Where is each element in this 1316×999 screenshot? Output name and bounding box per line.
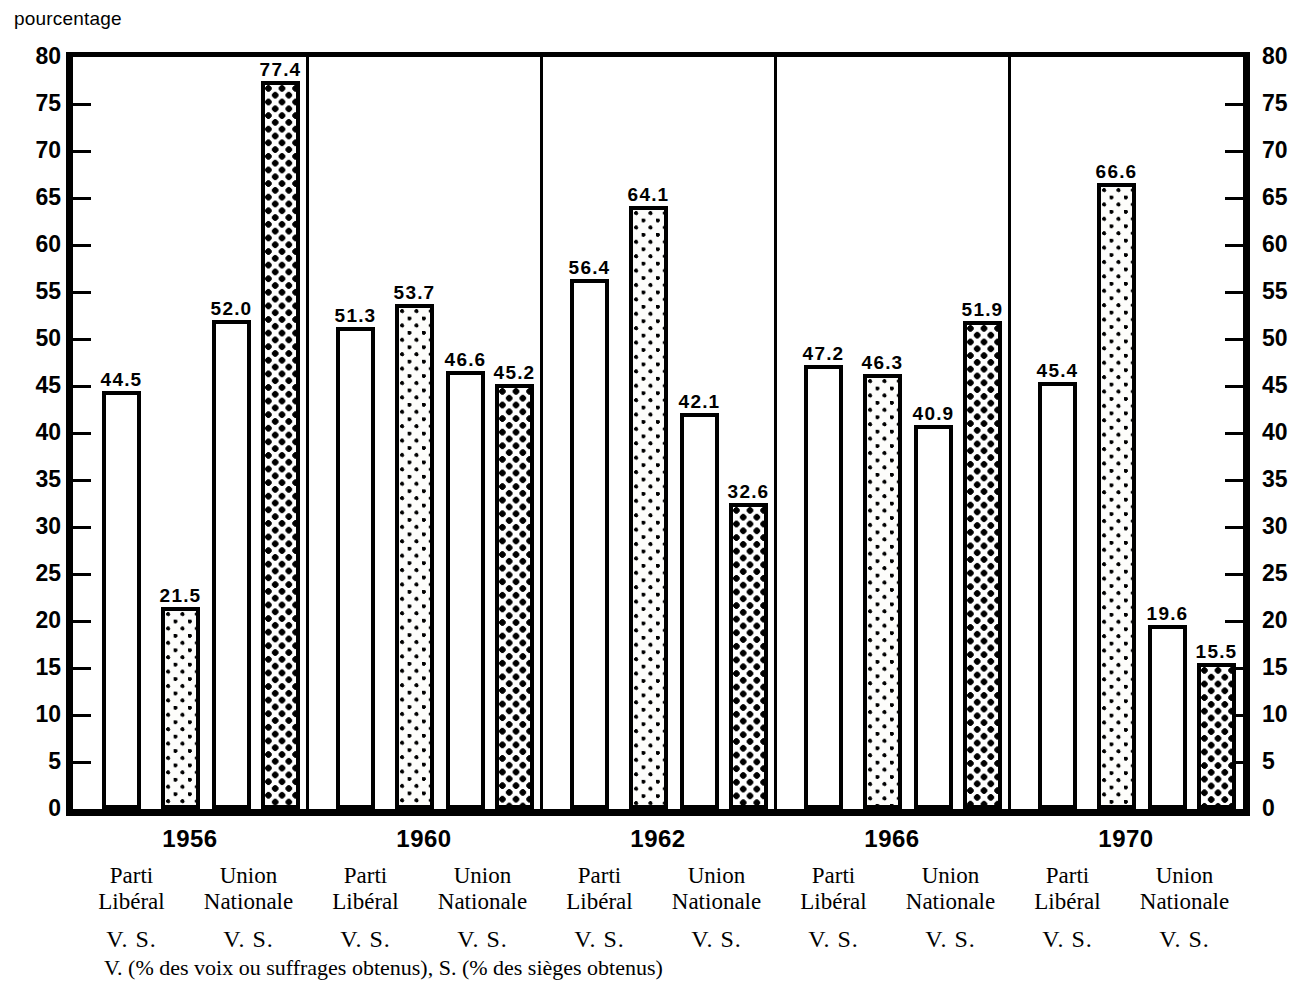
y-tick-right bbox=[1225, 385, 1243, 388]
y-tick-left bbox=[73, 714, 91, 717]
y-tick-right bbox=[1225, 338, 1243, 341]
bar-1962-3[interactable]: 42.1 bbox=[680, 413, 719, 809]
bar-1970-3[interactable]: 19.6 bbox=[1148, 625, 1187, 809]
bar-value-label: 47.2 bbox=[803, 343, 845, 365]
y-axis-title: pourcentage bbox=[14, 8, 122, 30]
bar-1956-3[interactable]: 52.0 bbox=[212, 320, 251, 809]
party-union-line1: Union bbox=[892, 863, 1009, 889]
y-tick-right bbox=[1225, 197, 1243, 200]
y-tick-left bbox=[73, 197, 91, 200]
bar-1966-1[interactable]: 47.2 bbox=[804, 365, 843, 809]
chart-plot-inner: 44.521.552.077.451.353.746.645.256.464.1… bbox=[73, 57, 1243, 809]
x-group-vs-row: V. S.V. S. bbox=[1009, 926, 1243, 953]
y-tick-left bbox=[73, 291, 91, 294]
bar-1966-3[interactable]: 40.9 bbox=[914, 425, 953, 809]
y-tick-left bbox=[73, 150, 91, 153]
bar-value-label: 44.5 bbox=[101, 369, 143, 391]
x-group-year-label: 1966 bbox=[775, 825, 1009, 853]
y-tick-label-right: 60 bbox=[1262, 233, 1316, 256]
y-tick-label-right: 0 bbox=[1262, 797, 1316, 820]
party-union-line2: Nationale bbox=[892, 889, 1009, 915]
y-tick-left bbox=[73, 620, 91, 623]
bar-value-label: 66.6 bbox=[1096, 161, 1138, 183]
bar-1962-4[interactable]: 32.6 bbox=[729, 503, 768, 809]
group-separator bbox=[306, 57, 309, 809]
y-tick-left bbox=[73, 385, 91, 388]
y-tick-label-left: 70 bbox=[1, 139, 61, 162]
party-union-label: UnionNationale bbox=[424, 863, 541, 915]
bar-value-label: 45.4 bbox=[1037, 360, 1079, 382]
party-liberal-label: PartiLibéral bbox=[73, 863, 190, 915]
x-group-1970: 1970PartiLibéralUnionNationaleV. S.V. S. bbox=[1009, 816, 1243, 953]
x-axis-group-labels: 1956PartiLibéralUnionNationaleV. S.V. S.… bbox=[66, 816, 1250, 966]
y-tick-label-left: 65 bbox=[1, 186, 61, 209]
y-tick-left bbox=[73, 667, 91, 670]
bar-value-label: 42.1 bbox=[679, 391, 721, 413]
bar-1970-4[interactable]: 15.5 bbox=[1197, 663, 1236, 809]
bar-1966-2[interactable]: 46.3 bbox=[863, 374, 902, 809]
vs-label-liberal: V. S. bbox=[1009, 926, 1126, 953]
x-group-vs-row: V. S.V. S. bbox=[775, 926, 1009, 953]
party-union-label: UnionNationale bbox=[1126, 863, 1243, 915]
y-tick-left bbox=[73, 244, 91, 247]
y-tick-label-left: 45 bbox=[1, 374, 61, 397]
bar-value-label: 53.7 bbox=[394, 282, 436, 304]
y-tick-label-right: 70 bbox=[1262, 139, 1316, 162]
y-tick-right bbox=[1225, 479, 1243, 482]
y-tick-label-right: 35 bbox=[1262, 468, 1316, 491]
x-group-party-row: PartiLibéralUnionNationale bbox=[307, 863, 541, 915]
party-liberal-label: PartiLibéral bbox=[1009, 863, 1126, 915]
bar-1956-2[interactable]: 21.5 bbox=[161, 607, 200, 809]
party-liberal-label: PartiLibéral bbox=[541, 863, 658, 915]
y-tick-label-left: 25 bbox=[1, 562, 61, 585]
bar-1956-4[interactable]: 77.4 bbox=[261, 81, 300, 809]
bar-1960-2[interactable]: 53.7 bbox=[395, 304, 434, 809]
party-liberal-label: PartiLibéral bbox=[775, 863, 892, 915]
y-tick-left bbox=[73, 479, 91, 482]
x-group-1962: 1962PartiLibéralUnionNationaleV. S.V. S. bbox=[541, 816, 775, 953]
y-tick-label-right: 30 bbox=[1262, 515, 1316, 538]
y-tick-label-left: 5 bbox=[1, 750, 61, 773]
y-tick-label-right: 50 bbox=[1262, 327, 1316, 350]
bar-1960-1[interactable]: 51.3 bbox=[336, 327, 375, 809]
y-tick-left bbox=[73, 103, 91, 106]
bar-1962-2[interactable]: 64.1 bbox=[629, 206, 668, 809]
party-liberal-line2: Libéral bbox=[1009, 889, 1126, 915]
bar-value-label: 51.9 bbox=[962, 299, 1004, 321]
party-union-line1: Union bbox=[1126, 863, 1243, 889]
party-union-line2: Nationale bbox=[1126, 889, 1243, 915]
bar-1960-3[interactable]: 46.6 bbox=[446, 371, 485, 809]
y-tick-label-left: 0 bbox=[1, 797, 61, 820]
y-tick-left bbox=[73, 573, 91, 576]
party-union-line1: Union bbox=[658, 863, 775, 889]
bar-value-label: 77.4 bbox=[260, 59, 302, 81]
bar-1970-2[interactable]: 66.6 bbox=[1097, 183, 1136, 809]
bar-value-label: 45.2 bbox=[494, 362, 536, 384]
y-tick-label-left: 75 bbox=[1, 92, 61, 115]
x-group-party-row: PartiLibéralUnionNationale bbox=[775, 863, 1009, 915]
y-tick-left bbox=[73, 338, 91, 341]
y-tick-label-left: 80 bbox=[1, 45, 61, 68]
y-tick-right bbox=[1225, 573, 1243, 576]
x-group-vs-row: V. S.V. S. bbox=[541, 926, 775, 953]
bar-1960-4[interactable]: 45.2 bbox=[495, 384, 534, 809]
y-tick-label-right: 45 bbox=[1262, 374, 1316, 397]
bar-value-label: 51.3 bbox=[335, 305, 377, 327]
chart-plot-area: 44.521.552.077.451.353.746.645.256.464.1… bbox=[66, 52, 1250, 816]
y-tick-label-right: 5 bbox=[1262, 750, 1316, 773]
y-tick-label-right: 20 bbox=[1262, 609, 1316, 632]
y-tick-label-right: 25 bbox=[1262, 562, 1316, 585]
party-union-line2: Nationale bbox=[190, 889, 307, 915]
bar-value-label: 64.1 bbox=[628, 184, 670, 206]
bar-1966-4[interactable]: 51.9 bbox=[963, 321, 1002, 809]
bar-1962-1[interactable]: 56.4 bbox=[570, 279, 609, 809]
vs-label-liberal: V. S. bbox=[541, 926, 658, 953]
bar-1956-1[interactable]: 44.5 bbox=[102, 391, 141, 809]
party-union-label: UnionNationale bbox=[658, 863, 775, 915]
y-tick-right bbox=[1225, 620, 1243, 623]
bar-1970-1[interactable]: 45.4 bbox=[1038, 382, 1077, 809]
y-tick-right bbox=[1225, 103, 1243, 106]
party-liberal-line1: Parti bbox=[1009, 863, 1126, 889]
bar-value-label: 52.0 bbox=[211, 298, 253, 320]
vs-label-union: V. S. bbox=[424, 926, 541, 953]
